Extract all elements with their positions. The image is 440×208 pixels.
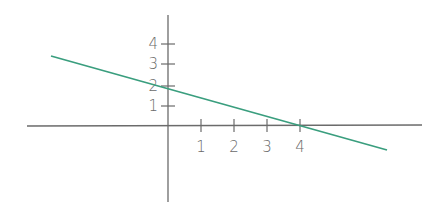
x-axis bbox=[27, 125, 422, 126]
y-tick-label-4: 4 bbox=[148, 35, 158, 53]
x-tick-label-1: 1 bbox=[196, 138, 206, 156]
line-graph: 1 2 3 4 1 2 3 4 bbox=[0, 0, 440, 208]
plotted-line bbox=[51, 56, 387, 150]
y-tick-label-3: 3 bbox=[148, 55, 158, 73]
y-tick-label-1: 1 bbox=[148, 97, 158, 115]
x-tick-label-2: 2 bbox=[229, 138, 239, 156]
x-tick-label-4: 4 bbox=[295, 138, 305, 156]
x-tick-label-3: 3 bbox=[262, 138, 272, 156]
